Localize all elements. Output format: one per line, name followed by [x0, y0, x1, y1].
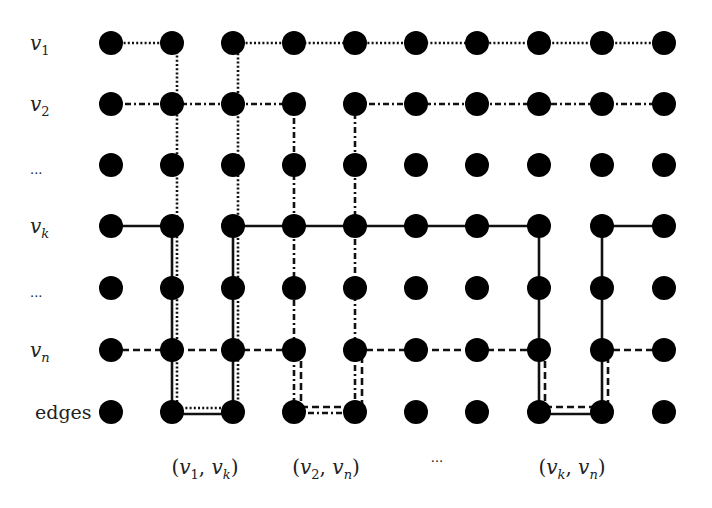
- grid-node: [465, 31, 489, 55]
- grid-node: [99, 276, 123, 300]
- grid-node: [282, 400, 306, 424]
- grid-node: [99, 92, 123, 116]
- grid-node: [282, 31, 306, 55]
- grid-nodes: [99, 31, 676, 424]
- column-label-vk-vn: (vk, vn): [538, 455, 605, 482]
- grid-node: [221, 214, 245, 238]
- grid-node: [652, 153, 676, 177]
- grid-node: [343, 400, 367, 424]
- grid-node: [652, 31, 676, 55]
- grid-node: [404, 276, 428, 300]
- grid-node: [404, 31, 428, 55]
- column-label-v2-vn: (v2, vn): [292, 455, 360, 482]
- path-edges: [111, 43, 664, 414]
- grid-node: [527, 31, 551, 55]
- grid-node: [590, 400, 614, 424]
- grid-node: [652, 214, 676, 238]
- grid-node: [465, 338, 489, 362]
- grid-node: [282, 276, 306, 300]
- grid-node: [652, 400, 676, 424]
- grid-node: [590, 338, 614, 362]
- grid-node: [160, 276, 184, 300]
- grid-node: [343, 276, 367, 300]
- row-label-v1: v1: [30, 31, 50, 58]
- grid-node: [343, 338, 367, 362]
- row-label-vk: vk: [30, 214, 49, 241]
- grid-node: [221, 400, 245, 424]
- grid-node: [99, 214, 123, 238]
- grid-node: [404, 400, 428, 424]
- grid-node: [160, 400, 184, 424]
- grid-node: [465, 400, 489, 424]
- grid-node: [465, 92, 489, 116]
- row-label-edges: edges: [35, 401, 92, 423]
- grid-node: [343, 31, 367, 55]
- grid-node: [527, 214, 551, 238]
- grid-node: [99, 400, 123, 424]
- row-label-ellipsis-2: ...: [30, 285, 42, 300]
- grid-node: [99, 338, 123, 362]
- grid-node: [404, 153, 428, 177]
- grid-node: [527, 153, 551, 177]
- grid-node: [282, 92, 306, 116]
- grid-node: [652, 338, 676, 362]
- row-labels: v1 v2 ... vk ... vn edges: [30, 31, 92, 423]
- gadget-grid-diagram: v1 v2 ... vk ... vn edges (v1, vk) (v2, …: [0, 0, 712, 508]
- grid-node: [99, 153, 123, 177]
- grid-node: [527, 400, 551, 424]
- grid-node: [590, 92, 614, 116]
- grid-node: [282, 153, 306, 177]
- grid-node: [99, 31, 123, 55]
- column-label-ellipsis: ...: [431, 450, 443, 465]
- grid-node: [590, 153, 614, 177]
- grid-node: [221, 92, 245, 116]
- grid-node: [160, 92, 184, 116]
- grid-node: [221, 31, 245, 55]
- grid-node: [404, 92, 428, 116]
- grid-node: [221, 276, 245, 300]
- grid-node: [404, 214, 428, 238]
- grid-node: [527, 338, 551, 362]
- grid-node: [282, 214, 306, 238]
- grid-node: [282, 338, 306, 362]
- grid-node: [590, 31, 614, 55]
- grid-node: [527, 276, 551, 300]
- grid-node: [404, 338, 428, 362]
- grid-node: [590, 276, 614, 300]
- grid-node: [465, 153, 489, 177]
- grid-node: [160, 338, 184, 362]
- grid-node: [590, 214, 614, 238]
- row-label-ellipsis-1: ...: [30, 162, 42, 177]
- grid-node: [465, 276, 489, 300]
- grid-node: [527, 92, 551, 116]
- grid-node: [160, 153, 184, 177]
- grid-node: [160, 31, 184, 55]
- column-label-v1-vk: (v1, vk): [171, 455, 238, 482]
- row-label-v2: v2: [30, 92, 50, 119]
- grid-node: [221, 153, 245, 177]
- grid-node: [465, 214, 489, 238]
- grid-node: [652, 276, 676, 300]
- column-labels: (v1, vk) (v2, vn) ... (vk, vn): [171, 450, 605, 482]
- grid-node: [343, 92, 367, 116]
- grid-node: [343, 153, 367, 177]
- grid-node: [652, 92, 676, 116]
- grid-node: [221, 338, 245, 362]
- row-label-vn: vn: [30, 338, 50, 365]
- grid-node: [343, 214, 367, 238]
- grid-node: [160, 214, 184, 238]
